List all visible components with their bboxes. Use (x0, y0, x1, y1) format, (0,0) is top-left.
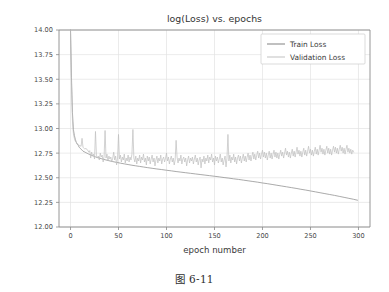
chart-legend: Train LossValidation Loss (261, 34, 365, 64)
x-tick-label: 0 (68, 232, 72, 240)
y-tick-label: 14.00 (34, 26, 53, 34)
y-tick-label: 12.25 (34, 199, 53, 207)
x-tick-label: 50 (114, 232, 122, 240)
x-tick-label: 150 (208, 232, 221, 240)
y-tick-label: 12.75 (34, 150, 53, 158)
x-tick-label: 250 (304, 232, 317, 240)
legend-label-validation: Validation Loss (290, 53, 345, 62)
y-tick-label: 13.25 (34, 100, 53, 108)
figure-container: 12.0012.2512.5012.7513.0013.2513.5013.75… (0, 0, 389, 292)
y-tick-label: 13.00 (34, 125, 53, 133)
y-tick-label: 13.75 (34, 51, 53, 59)
chart-title: log(Loss) vs. epochs (167, 13, 262, 24)
x-tick-label: 100 (160, 232, 173, 240)
legend-label-train: Train Loss (289, 40, 326, 49)
chart-canvas: 12.0012.2512.5012.7513.0013.2513.5013.75… (0, 0, 389, 265)
y-tick-label: 12.50 (34, 174, 53, 182)
x-axis-title: epoch number (183, 245, 246, 255)
x-tick-label: 300 (352, 232, 365, 240)
y-tick-label: 13.50 (34, 76, 53, 84)
x-tick-label: 200 (256, 232, 269, 240)
figure-caption: 图 6-11 (0, 271, 389, 286)
y-tick-label: 12.00 (34, 223, 53, 231)
